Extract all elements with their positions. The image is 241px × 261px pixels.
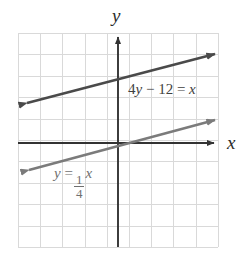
eq-variable-y: y <box>136 81 143 97</box>
eq2-variable-x: x <box>85 165 92 181</box>
equation-label-dark-line: 4y − 12 = x <box>128 82 196 97</box>
eq2-variable-y: y <box>54 165 61 181</box>
eq-operator: − <box>146 81 154 97</box>
graph-figure: y x 4y − 12 = x y =14x <box>0 0 241 261</box>
eq-variable-x: x <box>189 81 196 97</box>
equation-label-light-line: y =14x <box>54 166 92 201</box>
eq-constant: 12 <box>158 81 173 97</box>
eq2-equals: = <box>64 165 72 181</box>
x-axis-label: x <box>227 133 235 152</box>
eq-equals: = <box>177 81 185 97</box>
one-fourth-fraction: 14 <box>74 173 85 201</box>
coordinate-plane <box>0 0 241 261</box>
fraction-numerator: 1 <box>74 173 85 186</box>
line-y-equals-one-fourth-x <box>29 120 215 170</box>
axis-lines <box>18 37 214 247</box>
y-axis-label: y <box>112 6 120 25</box>
fraction-denominator: 4 <box>74 186 85 200</box>
eq-coefficient: 4 <box>128 81 136 97</box>
